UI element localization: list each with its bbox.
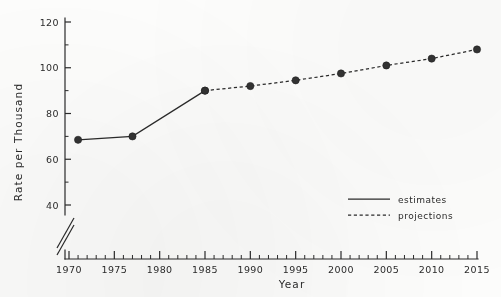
x-tick-label: 1995 <box>283 264 309 275</box>
data-point-marker <box>428 55 435 62</box>
x-axis-title: Year <box>278 278 306 290</box>
line-chart-canvas: 406080100120 197019751980198519901995200… <box>0 0 501 297</box>
chart-legend: estimatesprojections <box>348 195 453 221</box>
legend-label-projections: projections <box>398 211 453 221</box>
x-tick-label: 1990 <box>237 264 263 275</box>
x-tick-label: 1980 <box>147 264 173 275</box>
data-series-group <box>74 46 480 144</box>
x-tick-label: 2015 <box>464 264 490 275</box>
y-tick-label: 100 <box>40 62 59 73</box>
x-tick-label: 2005 <box>373 264 399 275</box>
y-tick-label: 60 <box>46 154 59 165</box>
y-axis-title: Rate per Thousand <box>12 83 24 201</box>
data-point-marker <box>337 70 344 77</box>
y-tick-label: 40 <box>46 200 59 211</box>
x-tick-label: 2010 <box>419 264 445 275</box>
data-point-marker <box>383 62 390 69</box>
data-point-marker <box>74 136 81 143</box>
data-point-marker <box>247 82 254 89</box>
y-tick-label: 120 <box>40 17 59 28</box>
legend-label-estimates: estimates <box>398 195 447 205</box>
x-tick-label: 1985 <box>192 264 218 275</box>
series-line-estimates <box>78 91 205 140</box>
y-tick-label: 80 <box>46 108 59 119</box>
y-axis: 406080100120 <box>40 17 74 260</box>
x-tick-label: 1970 <box>56 264 82 275</box>
x-axis: 1970197519801985199019952000200520102015 <box>56 251 490 275</box>
data-point-marker <box>292 77 299 84</box>
data-point-marker <box>201 87 208 94</box>
data-point-marker <box>129 133 136 140</box>
x-tick-label: 2000 <box>328 264 354 275</box>
data-point-marker <box>473 46 480 53</box>
chart-figure: 406080100120 197019751980198519901995200… <box>0 0 501 297</box>
x-tick-label: 1975 <box>101 264 127 275</box>
